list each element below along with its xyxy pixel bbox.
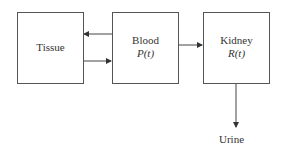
urine-label: Urine [219,133,244,145]
blood-label: Blood [113,34,178,47]
kidney-sublabel: R(t) [204,47,269,60]
tissue-box: Tissue [17,12,84,84]
blood-box: Blood P(t) [112,12,179,84]
blood-sublabel: P(t) [113,47,178,60]
kidney-box: Kidney R(t) [203,12,270,84]
kidney-label: Kidney [204,34,269,47]
tissue-label: Tissue [18,41,83,54]
